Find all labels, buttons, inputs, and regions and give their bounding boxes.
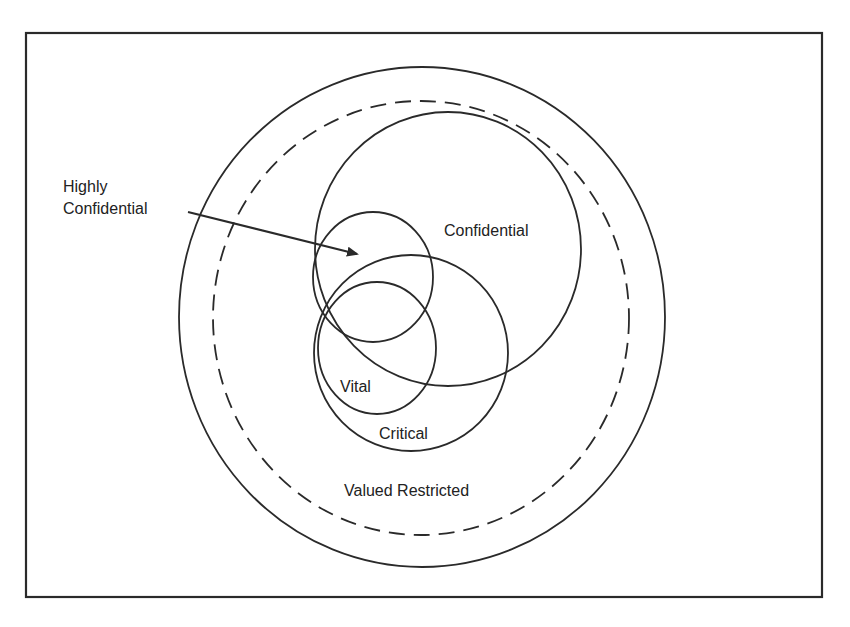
vital-ellipse	[318, 282, 436, 414]
confidential-ellipse	[315, 112, 581, 386]
label-highly: Highly	[63, 178, 107, 195]
label-vital: Vital	[340, 378, 371, 395]
highly-confidential-arrow	[188, 212, 357, 254]
highly-confidential-ellipse	[313, 212, 433, 342]
diagram-frame	[26, 33, 822, 597]
label-valued-restricted: Valued Restricted	[344, 482, 469, 499]
critical-ellipse	[314, 255, 508, 451]
label-confidential: Confidential	[444, 222, 529, 239]
label-highly-confidential: Confidential	[63, 200, 148, 217]
valued-restricted-dashed-ellipse	[213, 101, 629, 535]
label-critical: Critical	[379, 425, 428, 442]
security-classification-diagram: Highly Confidential Confidential Vital C…	[0, 0, 850, 627]
